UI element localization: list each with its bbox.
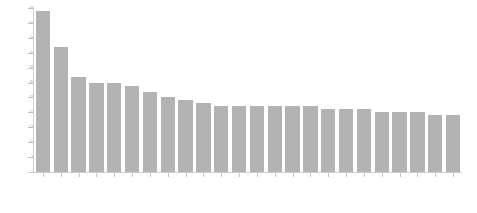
y-axis-tick-label: 20 — [10, 110, 34, 114]
bar[interactable] — [71, 77, 85, 172]
bar-chart: 0510152025303540455055 — [0, 0, 477, 213]
y-axis-tick-label: 30 — [10, 80, 34, 84]
y-axis-tick-label: 55 — [10, 6, 34, 10]
bar[interactable] — [125, 86, 139, 172]
y-axis-tick-label: 10 — [10, 140, 34, 144]
bar[interactable] — [357, 109, 371, 172]
bar[interactable] — [339, 109, 353, 172]
y-axis-tick-label: 5 — [10, 155, 34, 159]
bar[interactable] — [232, 106, 246, 172]
bar[interactable] — [143, 92, 157, 173]
bar[interactable] — [375, 112, 389, 172]
bar[interactable] — [196, 103, 210, 172]
bar[interactable] — [428, 115, 442, 172]
bar[interactable] — [392, 112, 406, 172]
bar[interactable] — [161, 97, 175, 172]
bar[interactable] — [214, 106, 228, 172]
bar[interactable] — [54, 47, 68, 172]
bars-container — [34, 8, 462, 172]
bar[interactable] — [285, 106, 299, 172]
y-axis-tick-label: 50 — [10, 21, 34, 25]
bar[interactable] — [36, 11, 50, 172]
y-axis-tick-label: 25 — [10, 95, 34, 99]
bar[interactable] — [107, 83, 121, 172]
y-axis-tick-label: 45 — [10, 36, 34, 40]
bar[interactable] — [268, 106, 282, 172]
bar[interactable] — [250, 106, 264, 172]
x-axis-labels — [34, 177, 462, 213]
bar[interactable] — [303, 106, 317, 172]
y-axis: 0510152025303540455055 — [0, 0, 34, 213]
bar[interactable] — [321, 109, 335, 172]
bar[interactable] — [178, 100, 192, 172]
bar[interactable] — [446, 115, 460, 172]
bar[interactable] — [89, 83, 103, 172]
y-axis-tick-label: 35 — [10, 65, 34, 69]
y-axis-tick-label: 40 — [10, 51, 34, 55]
bar[interactable] — [410, 112, 424, 172]
y-axis-tick-label: 15 — [10, 125, 34, 129]
